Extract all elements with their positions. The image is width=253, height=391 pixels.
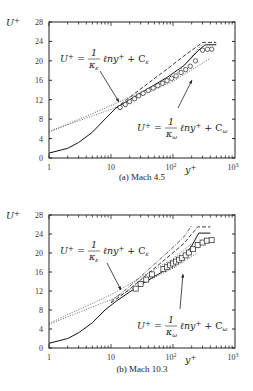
data-marker-circle (137, 94, 141, 98)
y-tick-label: 24 (35, 230, 43, 239)
arrow-epsilon (100, 71, 119, 102)
y-tick-label: 0 (39, 154, 43, 163)
figure: 0481216202428110102103U+y+U+ = 1κεℓny+ +… (0, 0, 253, 391)
svg-text:1: 1 (91, 239, 97, 250)
data-marker-circle (127, 99, 131, 103)
x-axis-label: y+ (184, 354, 196, 365)
y-axis-label: U+ (6, 210, 20, 221)
chart-panel-2: 0481216202428110102103U+y+U+ = 1κεℓny+ +… (6, 210, 239, 374)
y-tick-label: 28 (35, 18, 43, 27)
data-marker-circle (132, 97, 136, 101)
y-tick-label: 12 (35, 96, 43, 105)
x-tick-label: 1 (47, 163, 51, 172)
x-tick-label: 102 (166, 162, 177, 172)
y-tick-label: 4 (39, 325, 43, 334)
panel-caption: (a) Mach 4.5 (119, 172, 166, 182)
x-tick-label: 1 (47, 353, 51, 362)
chart-panel-1: 0481216202428110102103U+y+U+ = 1κεℓny+ +… (6, 17, 239, 182)
annotation-omega-loglaw: U+ = 1κωℓny+ + Cω (137, 314, 228, 338)
svg-text:ℓny+ + Cω: ℓny+ + Cω (180, 122, 228, 134)
x-tick-label: 10 (107, 163, 115, 172)
data-marker-circle (193, 59, 197, 63)
x-tick-label: 10 (107, 353, 115, 362)
y-tick-label: 12 (35, 287, 43, 296)
data-marker-circle (151, 86, 155, 90)
y-axis-label: U+ (6, 17, 20, 28)
y-tick-label: 8 (39, 306, 43, 315)
data-marker-circle (200, 48, 204, 52)
data-marker-square (204, 238, 209, 243)
annotation-omega-loglaw: U+ = 1κωℓny+ + Cω (137, 116, 228, 140)
y-tick-label: 16 (35, 76, 43, 85)
arrow-omega (180, 274, 183, 309)
arrow-omega (178, 80, 192, 108)
y-tick-label: 4 (39, 135, 43, 144)
x-axis-label: y+ (184, 164, 196, 175)
svg-text:1: 1 (91, 47, 97, 58)
x-tick-label: 103 (228, 162, 239, 172)
svg-text:κω: κω (165, 326, 177, 338)
y-tick-label: 16 (35, 268, 43, 277)
svg-text:κε: κε (88, 59, 98, 71)
data-marker-circle (165, 79, 169, 83)
y-tick-label: 28 (35, 211, 43, 220)
annotation-epsilon-loglaw: U+ = 1κεℓny+ + Cε (60, 239, 149, 263)
svg-text:κε: κε (88, 251, 98, 263)
y-tick-label: 20 (35, 249, 43, 258)
data-marker-square (150, 272, 155, 277)
data-marker-circle (146, 88, 150, 92)
svg-text:U+ =: U+ = (137, 122, 162, 133)
data-marker-circle (179, 70, 183, 74)
data-marker-circle (118, 105, 122, 109)
data-marker-circle (123, 102, 127, 106)
svg-text:ℓny+ + Cε: ℓny+ + Cε (103, 245, 149, 257)
plot-frame (49, 22, 235, 158)
data-marker-square (144, 277, 149, 282)
svg-text:U+ =: U+ = (137, 320, 162, 331)
y-tick-label: 24 (35, 37, 43, 46)
data-marker-circle (169, 76, 173, 80)
y-tick-label: 0 (39, 344, 43, 353)
series-dashdot (111, 225, 192, 301)
arrow-epsilon (107, 263, 121, 290)
data-marker-circle (160, 81, 164, 85)
svg-text:1: 1 (168, 314, 174, 325)
x-tick-label: 102 (166, 352, 177, 362)
data-marker-circle (174, 74, 178, 78)
data-marker-circle (188, 64, 192, 68)
x-tick-label: 103 (228, 352, 239, 362)
data-marker-circle (183, 67, 187, 71)
y-tick-label: 20 (35, 57, 43, 66)
data-marker-circle (141, 91, 145, 95)
svg-text:1: 1 (168, 116, 174, 127)
svg-text:U+ =: U+ = (60, 245, 85, 256)
y-tick-label: 8 (39, 115, 43, 124)
data-marker-circle (156, 83, 160, 87)
svg-text:ℓny+ + Cω: ℓny+ + Cω (180, 320, 228, 332)
data-marker-square (138, 281, 143, 286)
annotation-epsilon-loglaw: U+ = 1κεℓny+ + Cε (60, 47, 149, 71)
svg-text:U+ =: U+ = (60, 53, 85, 64)
data-marker-square (195, 242, 200, 247)
data-marker-circle (209, 47, 213, 51)
data-marker-square (190, 247, 195, 252)
data-marker-square (209, 238, 214, 243)
svg-text:κω: κω (165, 128, 177, 140)
panel-caption: (b) Mach 10.3 (116, 364, 168, 374)
data-marker-square (133, 286, 138, 291)
svg-text:ℓny+ + Cε: ℓny+ + Cε (103, 53, 149, 65)
data-marker-circle (205, 47, 209, 51)
